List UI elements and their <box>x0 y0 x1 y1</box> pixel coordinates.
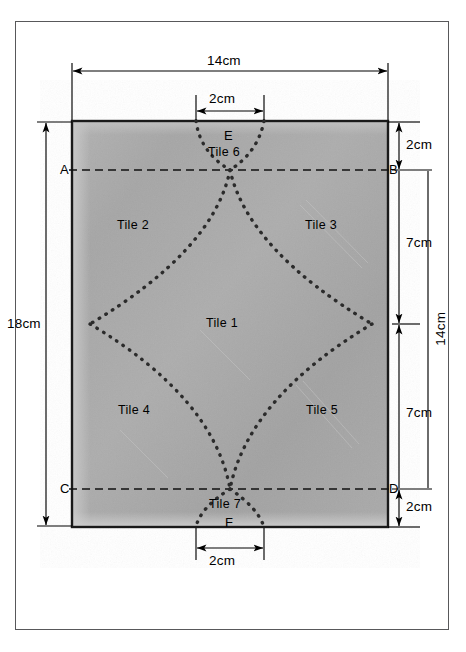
dim-label-right-upper: 7cm <box>406 236 432 250</box>
dim-label-right-total: 14cm <box>434 312 448 346</box>
point-label-d: D <box>389 482 398 495</box>
point-label-b: B <box>389 163 398 176</box>
point-label-a: A <box>60 163 69 176</box>
dim-label-right-top: 2cm <box>406 138 432 152</box>
tile-label-3: Tile 3 <box>305 219 337 232</box>
diagram-page: 14cm 2cm 18cm 2cm 7cm 7cm 2cm 14cm 2cm A… <box>0 0 466 652</box>
tile-label-7: Tile 7 <box>209 498 241 511</box>
point-label-f: F <box>225 516 233 529</box>
dim-label-right-lower: 7cm <box>406 406 432 420</box>
point-label-c: C <box>60 482 69 495</box>
dim-right-group <box>388 122 432 527</box>
tile-label-1: Tile 1 <box>206 317 238 330</box>
tile-label-4: Tile 4 <box>118 404 150 417</box>
dim-label-top-notch: 2cm <box>209 92 235 106</box>
tile-label-5: Tile 5 <box>306 404 338 417</box>
dim-label-left-height: 18cm <box>7 317 41 331</box>
dim-label-right-bottom: 2cm <box>406 500 432 514</box>
tile-label-6: Tile 6 <box>208 146 240 159</box>
point-label-e: E <box>224 129 233 142</box>
tile-label-2: Tile 2 <box>117 219 149 232</box>
dim-label-bottom-notch: 2cm <box>209 554 235 568</box>
dim-label-top-width: 14cm <box>207 54 241 68</box>
dim-left-height <box>37 122 72 526</box>
